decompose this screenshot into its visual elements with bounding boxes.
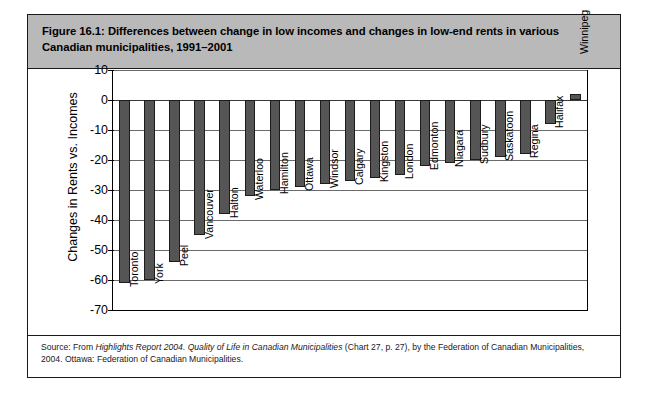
y-tickmark--40 <box>108 220 114 221</box>
y-tick-label: 0 <box>74 94 108 106</box>
source-title-italic: Highlights Report 2004. Quality of Life … <box>95 342 342 352</box>
gridline--40 <box>113 220 588 221</box>
bar <box>570 94 581 100</box>
y-tickmark-0 <box>108 100 114 101</box>
y-tick-label: 10 <box>74 64 108 76</box>
plot-area: TorontoYorkPeelVancouverHaltonWaterlooHa… <box>112 70 588 310</box>
gridline--30 <box>113 190 588 191</box>
category-label: Ottawa <box>304 157 315 191</box>
y-tickmark--60 <box>108 280 114 281</box>
chart-plot-region: Changes in Rents vs. Incomes 100-10-20-3… <box>28 70 620 335</box>
category-label: York <box>154 263 165 284</box>
category-label: Winnipeg <box>579 10 590 54</box>
category-label: Vancouver <box>204 189 215 239</box>
source-prefix: Source: From <box>41 342 95 352</box>
y-axis-tick-labels: 100-10-20-30-40-50-60-70 <box>68 70 108 335</box>
y-tick-label: -30 <box>74 184 108 196</box>
figure-container: Figure 16.1: Differences between change … <box>27 14 621 378</box>
gridline-10 <box>113 70 588 71</box>
category-label: Kingston <box>379 141 390 182</box>
bar <box>144 100 155 280</box>
figure-title-band: Figure 16.1: Differences between change … <box>28 15 620 69</box>
y-tick-label: -20 <box>74 154 108 166</box>
source-note: Source: From Highlights Report 2004. Qua… <box>41 342 607 365</box>
category-label: Hamilton <box>279 152 290 194</box>
y-tick-label: -60 <box>74 274 108 286</box>
category-label: Calgary <box>354 148 365 185</box>
y-tickmark--10 <box>108 130 114 131</box>
gridline--70 <box>113 310 588 311</box>
y-tickmark--20 <box>108 160 114 161</box>
y-tickmark-10 <box>108 70 114 71</box>
category-label: Windsor <box>329 149 340 188</box>
y-tickmark--30 <box>108 190 114 191</box>
category-label: Halifax <box>554 96 565 128</box>
category-label: Edmonton <box>429 122 440 170</box>
y-tick-label: -50 <box>74 244 108 256</box>
source-divider <box>28 335 620 336</box>
y-tickmark--70 <box>108 310 114 311</box>
category-label: London <box>404 144 415 179</box>
category-label: Regina <box>529 124 540 158</box>
category-label: Waterloo <box>254 158 265 200</box>
y-tickmark--50 <box>108 250 114 251</box>
category-label: Toronto <box>129 252 140 287</box>
y-tick-label: -70 <box>74 304 108 316</box>
gridline--60 <box>113 280 588 281</box>
category-label: Halton <box>229 187 240 218</box>
category-label: Niagara <box>454 130 465 167</box>
bar <box>169 100 180 262</box>
plot-right-border <box>587 70 588 310</box>
figure-title: Figure 16.1: Differences between change … <box>42 24 602 55</box>
category-label: Saskatoon <box>504 111 515 161</box>
category-label: Sudbury <box>479 125 490 164</box>
category-label: Peel <box>179 245 190 266</box>
y-tick-label: -40 <box>74 214 108 226</box>
y-tick-label: -10 <box>74 124 108 136</box>
